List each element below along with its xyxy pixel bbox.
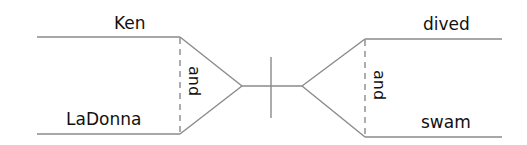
predicate-word-2: swam (421, 112, 471, 132)
predicate-word-1: dived (423, 14, 470, 34)
predicate-conjunction: and (370, 70, 389, 100)
predicate-branch-bottom (302, 86, 365, 137)
sentence-diagram: Ken LaDonna dived swam and and (0, 0, 527, 145)
subject-conjunction: and (185, 66, 204, 96)
subject-word-1: Ken (114, 13, 146, 33)
subject-word-2: LaDonna (66, 109, 141, 129)
predicate-branch-top (302, 39, 365, 86)
